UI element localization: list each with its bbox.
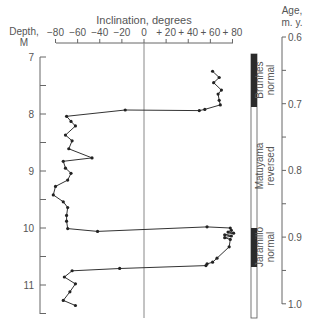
- zone-label-jaramillo: Jaramillo normal: [254, 227, 276, 267]
- data-point: [219, 103, 222, 106]
- depth-tick-label: 8: [28, 109, 34, 120]
- data-point: [211, 70, 214, 73]
- data-point: [54, 185, 57, 188]
- data-point: [62, 299, 65, 302]
- data-point: [217, 92, 220, 95]
- data-point: [66, 227, 69, 230]
- data-point: [71, 269, 74, 272]
- x-tick-label: + 60: [200, 27, 220, 38]
- data-point: [66, 179, 69, 182]
- depth-axis-ticks: 7891011: [23, 52, 46, 314]
- x-tick-label: + 40: [178, 27, 198, 38]
- age-axis-title: Age,: [282, 5, 303, 16]
- data-point: [212, 81, 215, 84]
- depth-tick-label: 7: [28, 52, 34, 63]
- data-point: [220, 88, 223, 91]
- data-point: [65, 214, 68, 217]
- inclination-series-points: [52, 70, 235, 307]
- data-point: [71, 139, 74, 142]
- x-tick-label: −40: [91, 27, 108, 38]
- svg-text:Brunhes: Brunhes: [254, 61, 265, 98]
- svg-text:Matuyama: Matuyama: [254, 142, 265, 189]
- svg-text:normal: normal: [265, 65, 276, 96]
- zone-label-matuyama: Matuyama reversed: [254, 142, 276, 189]
- data-point: [64, 133, 67, 136]
- data-point: [62, 160, 65, 163]
- age-tick-label: 0.6: [288, 32, 302, 43]
- age-tick-label: 0.8: [288, 165, 302, 176]
- data-point: [232, 232, 235, 235]
- data-point: [203, 108, 206, 111]
- data-point: [74, 282, 77, 285]
- data-point: [118, 267, 121, 270]
- data-point: [65, 220, 68, 223]
- depth-axis-title: Depth,: [9, 26, 38, 37]
- data-point: [67, 147, 70, 150]
- data-point: [204, 264, 207, 267]
- inclination-series-line: [53, 71, 233, 305]
- depth-tick-label: 10: [23, 223, 35, 234]
- svg-text:Jaramillo: Jaramillo: [254, 227, 265, 267]
- data-point: [52, 193, 55, 196]
- data-point: [63, 275, 66, 278]
- data-point: [64, 167, 67, 170]
- x-tick-label: −60: [69, 27, 86, 38]
- x-axis-ticks: −80−60−40−200+ 20+ 40+ 60+ 80: [47, 27, 243, 43]
- svg-text:reversed: reversed: [265, 147, 276, 186]
- data-point: [74, 124, 77, 127]
- data-point: [124, 108, 127, 111]
- age-axis-unit: m. y.: [282, 17, 303, 28]
- data-point: [215, 257, 218, 260]
- age-tick-label: 0.7: [288, 99, 302, 110]
- data-point: [65, 115, 68, 118]
- data-point: [90, 156, 93, 159]
- data-point: [69, 172, 72, 175]
- x-tick-label: 0: [141, 27, 147, 38]
- data-point: [229, 238, 232, 241]
- age-axis-ticks: 0.60.70.80.91.0: [282, 32, 302, 310]
- x-tick-label: + 80: [223, 27, 243, 38]
- data-point: [198, 109, 201, 112]
- data-point: [230, 234, 233, 237]
- data-point: [230, 229, 233, 232]
- x-tick-label: −80: [47, 27, 64, 38]
- depth-tick-label: 11: [24, 280, 35, 291]
- data-point: [96, 230, 99, 233]
- data-point: [68, 290, 71, 293]
- data-point: [226, 230, 229, 233]
- data-point: [62, 200, 65, 203]
- data-point: [218, 76, 221, 79]
- inclination-depth-chart: Inclination, degrees Depth, M Age, m. y.…: [0, 0, 317, 325]
- x-tick-label: −20: [113, 27, 130, 38]
- depth-tick-label: 9: [28, 166, 34, 177]
- data-point: [223, 236, 226, 239]
- data-point: [211, 261, 214, 264]
- data-point: [205, 225, 208, 228]
- data-point: [218, 99, 221, 102]
- depth-axis-unit: M: [20, 37, 28, 48]
- data-point: [66, 206, 69, 209]
- zone-label-brunhes: Brunhes normal: [254, 61, 276, 98]
- data-point: [228, 245, 231, 248]
- data-point: [74, 304, 77, 307]
- age-tick-label: 1.0: [288, 299, 302, 310]
- x-axis-title: Inclination, degrees: [96, 14, 192, 26]
- x-tick-label: + 20: [156, 27, 176, 38]
- age-tick-label: 0.9: [288, 232, 302, 243]
- data-point: [69, 120, 72, 123]
- svg-text:normal: normal: [265, 232, 276, 263]
- data-point: [223, 233, 226, 236]
